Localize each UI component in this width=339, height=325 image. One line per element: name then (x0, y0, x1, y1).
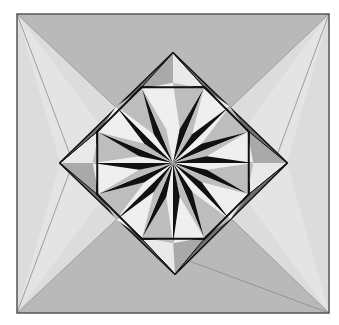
fold-diagram (0, 0, 339, 325)
octagon-star (93, 83, 254, 244)
